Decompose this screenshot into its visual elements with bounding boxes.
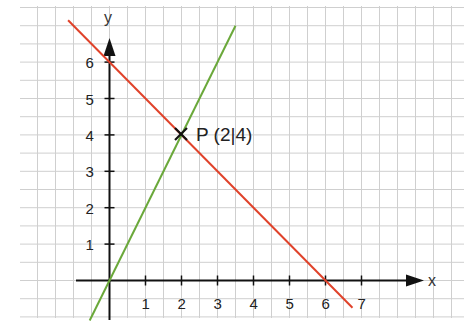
x-tick-label: 7 — [358, 295, 366, 312]
axes: x y — [76, 9, 436, 320]
y-axis-label: y — [104, 9, 112, 26]
x-tick-label: 2 — [178, 295, 186, 312]
y-tick-label: 3 — [86, 163, 94, 180]
x-tick-label: 5 — [286, 295, 294, 312]
y-axis-arrow-icon — [104, 38, 116, 56]
x-axis-label: x — [428, 272, 436, 289]
x-tick-label: 6 — [322, 295, 330, 312]
y-tick-label: 2 — [86, 200, 94, 217]
grid — [20, 6, 464, 318]
y-tick-label: 4 — [86, 127, 94, 144]
x-tick-label: 3 — [214, 295, 222, 312]
point-p-label: P (2|4) — [196, 124, 252, 145]
coordinate-plot: x y 1234567123456 P (2|4) — [0, 0, 469, 333]
series — [68, 20, 352, 320]
y-tick-label: 5 — [86, 91, 94, 108]
y-tick-label: 6 — [86, 54, 94, 71]
series-line — [68, 20, 352, 308]
y-tick-label: 1 — [86, 236, 94, 253]
x-tick-label: 4 — [250, 295, 258, 312]
series-line — [90, 26, 236, 321]
x-tick-label: 1 — [142, 295, 150, 312]
